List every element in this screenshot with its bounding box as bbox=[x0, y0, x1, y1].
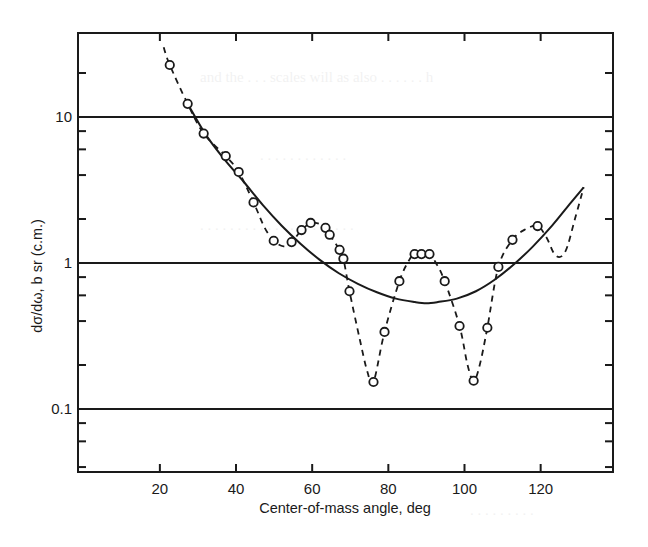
data-point bbox=[533, 222, 541, 230]
x-tick-label: 60 bbox=[304, 480, 321, 497]
x-tick-label: 40 bbox=[228, 480, 245, 497]
data-point bbox=[469, 377, 477, 385]
data-point bbox=[425, 250, 433, 258]
data-point bbox=[287, 238, 295, 246]
fit-curve bbox=[188, 104, 584, 303]
data-point bbox=[306, 219, 314, 227]
y-tick-label: 10 bbox=[55, 108, 72, 125]
y-axis-label: dσ/dω, b sr (c.m.) bbox=[29, 219, 45, 333]
data-point bbox=[483, 324, 491, 332]
data-point bbox=[325, 231, 333, 239]
background-bleed: and the . . . scales will as also . . . … bbox=[200, 69, 534, 518]
data-point bbox=[335, 246, 343, 254]
data-point bbox=[345, 287, 353, 295]
data-point bbox=[494, 263, 502, 271]
data-point bbox=[249, 198, 257, 206]
svg-text:. . . . . . . . . . . .: . . . . . . . . . . . . bbox=[260, 147, 346, 163]
data-point bbox=[395, 277, 403, 285]
data-point bbox=[199, 129, 207, 137]
data-point bbox=[508, 236, 516, 244]
cross-section-chart: and the . . . scales will as also . . . … bbox=[0, 0, 648, 547]
data-point bbox=[183, 100, 191, 108]
data-point bbox=[440, 277, 448, 285]
x-tick-label: 20 bbox=[152, 480, 169, 497]
x-tick-label: 100 bbox=[452, 480, 477, 497]
data-point bbox=[297, 226, 305, 234]
x-axis-label: Center-of-mass angle, deg bbox=[259, 500, 431, 516]
data-point bbox=[380, 328, 388, 336]
data-point bbox=[339, 254, 347, 262]
data-point bbox=[166, 61, 174, 69]
x-tick-label: 120 bbox=[528, 480, 553, 497]
y-tick-label: 1 bbox=[64, 254, 72, 271]
axis-tick-labels: 204060801001200.1110 bbox=[51, 108, 553, 497]
plot-frame bbox=[78, 33, 613, 472]
dashed-data-curve bbox=[164, 47, 584, 384]
data-point bbox=[270, 237, 278, 245]
y-tick-label: 0.1 bbox=[51, 400, 72, 417]
axis-ticks bbox=[78, 33, 613, 472]
x-tick-label: 80 bbox=[380, 480, 397, 497]
data-point bbox=[234, 168, 242, 176]
svg-text:and the . . . scales will as: and the . . . scales will as also . . . … bbox=[200, 69, 434, 85]
data-point bbox=[222, 152, 230, 160]
data-point bbox=[455, 322, 463, 330]
data-point bbox=[369, 378, 377, 386]
svg-text:. . . . . . . . .: . . . . . . . . . bbox=[470, 502, 534, 518]
